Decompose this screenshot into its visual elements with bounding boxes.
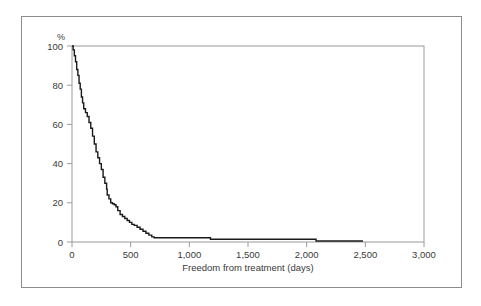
survival-chart: 020406080100 05001,0001,5002,0002,5003,0… — [0, 0, 481, 306]
plot-frame-rect — [72, 46, 424, 242]
y-tick-label: 100 — [47, 41, 63, 52]
y-axis-unit-label: % — [57, 32, 65, 42]
survival-curve-line — [72, 46, 363, 241]
x-tick-label: 0 — [69, 249, 74, 260]
x-tick-label: 500 — [123, 249, 139, 260]
x-tick-label: 3,000 — [412, 249, 436, 260]
x-axis: 05001,0001,5002,0002,5003,000 — [69, 242, 436, 260]
y-tick-label: 80 — [52, 80, 63, 91]
x-tick-label: 1,000 — [177, 249, 201, 260]
y-tick-label: 60 — [52, 119, 63, 130]
x-tick-label: 2,000 — [295, 249, 319, 260]
x-tick-label: 1,500 — [236, 249, 260, 260]
x-axis-title: Freedom from treatment (days) — [182, 262, 313, 273]
plot-frame — [72, 46, 424, 242]
y-tick-label: 0 — [58, 237, 63, 248]
data-series-group — [72, 46, 363, 241]
y-tick-label: 20 — [52, 197, 63, 208]
y-tick-label: 40 — [52, 158, 63, 169]
x-tick-label: 2,500 — [353, 249, 377, 260]
y-axis: 020406080100 — [47, 41, 72, 248]
